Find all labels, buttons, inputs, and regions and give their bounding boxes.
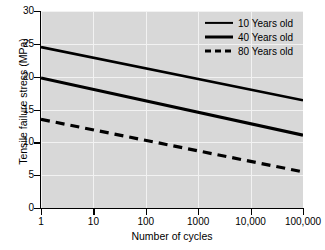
legend-label: 10 Years old <box>238 18 293 29</box>
legend-item: 10 Years old <box>205 17 307 29</box>
y-axis-title: Tensile failure stress (MPa) <box>18 17 29 187</box>
x-tick-label: 1000 <box>187 217 209 227</box>
legend-label: 80 Years old <box>238 46 293 57</box>
y-tick-mark <box>34 77 40 78</box>
x-tick-mark <box>93 209 94 215</box>
y-axis-line <box>40 11 41 209</box>
y-tick-mark <box>34 142 40 143</box>
x-tick-label: 100,000 <box>285 217 321 227</box>
y-tick-mark <box>34 44 40 45</box>
legend-label: 40 Years old <box>238 32 293 43</box>
legend-swatch-icon <box>205 31 233 43</box>
x-tick-mark <box>146 209 147 215</box>
legend: 10 Years old40 Years old80 Years old <box>205 17 307 59</box>
legend-swatch-icon <box>205 17 233 29</box>
x-axis-line <box>40 208 304 209</box>
y-tick-mark <box>34 11 40 12</box>
x-tick-label: 1 <box>38 217 44 227</box>
y-tick-mark <box>34 110 40 111</box>
legend-swatch-icon <box>205 45 233 57</box>
legend-line-glyph <box>205 22 233 24</box>
x-tick-label: 100 <box>137 217 154 227</box>
x-tick-mark <box>251 209 252 215</box>
legend-line-glyph <box>205 50 233 53</box>
legend-line-glyph <box>205 36 233 39</box>
y-tick-label: 30 <box>23 6 34 16</box>
x-tick-mark <box>303 209 304 215</box>
legend-item: 80 Years old <box>205 45 307 57</box>
x-tick-label: 10 <box>88 217 99 227</box>
legend-item: 40 Years old <box>205 31 307 43</box>
y-tick-label: 5 <box>28 170 34 180</box>
x-axis-title: Number of cycles <box>41 231 303 242</box>
x-tick-mark <box>198 209 199 215</box>
series-line <box>41 78 303 135</box>
y-tick-label: 0 <box>28 203 34 213</box>
y-tick-mark <box>34 208 40 209</box>
chart-figure: 051015202530 110100100010,000100,000 Ten… <box>0 0 325 250</box>
x-tick-mark <box>41 209 42 215</box>
y-tick-mark <box>34 175 40 176</box>
x-tick-label: 10,000 <box>235 217 266 227</box>
